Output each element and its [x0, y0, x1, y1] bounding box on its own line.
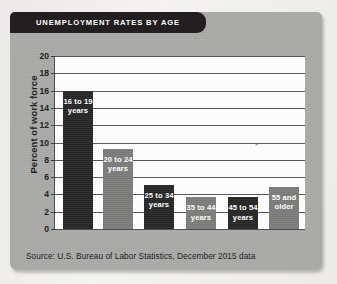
y-axis-tick: [51, 177, 55, 178]
y-axis-tick: [51, 56, 55, 57]
bar: 25 to 34years: [144, 185, 174, 229]
y-axis-tick: [51, 229, 55, 230]
y-axis-tick-label: 14: [39, 103, 49, 113]
y-axis-tick: [51, 73, 55, 74]
y-axis-tick-label: 20: [39, 51, 49, 61]
bar-label-line2: years: [99, 164, 137, 174]
bar-label-line2: years: [224, 213, 262, 223]
bar-label: 45 to 54years: [224, 203, 262, 222]
y-axis-tick: [51, 125, 55, 126]
y-axis-title: Percent of work force: [28, 65, 39, 185]
y-axis-tick: [51, 194, 55, 195]
chart-title: UNEMPLOYMENT RATES BY AGE: [10, 18, 180, 27]
bar-label-line1: 55 and: [265, 193, 303, 203]
y-axis-tick: [51, 108, 55, 109]
bar: 55 andolder: [269, 187, 299, 229]
plot-area: 0246810121416182016 to 19years20 to 24ye…: [54, 56, 305, 230]
bar-label-line1: 20 to 24: [99, 155, 137, 165]
source-note: Source: U.S. Bureau of Labor Statistics,…: [26, 251, 255, 261]
y-axis-tick-label: 0: [44, 224, 49, 234]
y-axis-tick-label: 12: [39, 120, 49, 130]
bar: 35 to 44years: [186, 197, 216, 229]
bar-label: 25 to 34years: [140, 191, 178, 210]
bar-label-line1: 45 to 54: [224, 203, 262, 213]
gridline: [55, 73, 305, 74]
bar-label-line2: years: [59, 106, 97, 116]
bar-label: 16 to 19years: [59, 97, 97, 116]
bar-label: 35 to 44years: [182, 203, 220, 222]
bar-label-line1: 16 to 19: [59, 97, 97, 107]
y-axis-tick-label: 16: [39, 86, 49, 96]
chart-area: Percent of work force 024681012141618201…: [10, 33, 322, 270]
bar-label-line1: 35 to 44: [182, 203, 220, 213]
bar-label-line2: years: [182, 213, 220, 223]
y-axis-tick: [51, 91, 55, 92]
y-axis-tick-label: 6: [44, 172, 49, 182]
bar-label: 20 to 24years: [99, 155, 137, 174]
bar-label-line1: 25 to 34: [140, 191, 178, 201]
bar: 20 to 24years: [103, 149, 133, 229]
bar-label: 55 andolder: [265, 193, 303, 212]
y-axis-tick-label: 2: [44, 207, 49, 217]
y-axis-tick: [51, 143, 55, 144]
bar: 16 to 19years: [63, 91, 93, 229]
bar: 45 to 54years: [228, 197, 258, 229]
y-axis-tick-label: 10: [39, 138, 49, 148]
y-axis-tick: [51, 160, 55, 161]
page-backdrop: UNEMPLOYMENT RATES BY AGE Percent of wor…: [0, 0, 337, 284]
y-axis-tick-label: 18: [39, 68, 49, 78]
bar-label-line2: years: [140, 200, 178, 210]
infographic-card: UNEMPLOYMENT RATES BY AGE Percent of wor…: [10, 12, 322, 270]
y-axis-tick-label: 4: [44, 189, 49, 199]
bar-label-line2: older: [265, 202, 303, 212]
y-axis-tick-label: 8: [44, 155, 49, 165]
chart-title-banner: UNEMPLOYMENT RATES BY AGE: [10, 12, 206, 33]
gridline: [55, 56, 305, 57]
y-axis-tick: [51, 212, 55, 213]
